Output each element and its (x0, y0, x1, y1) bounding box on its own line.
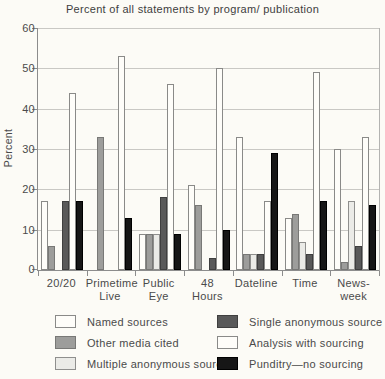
bar-primetime-live-punditry-no-sourcing (125, 218, 132, 270)
other-media-cited-swatch-icon (55, 336, 76, 349)
legend-label-analysis-with-sourcing: Analysis with sourcing (249, 337, 364, 349)
gridline-30 (38, 149, 379, 150)
bar-public-eye-other-media-cited (146, 234, 153, 270)
legend-item-analysis-with-sourcing: Analysis with sourcing (217, 336, 364, 349)
bar-news-week-single-anonymous-source (355, 246, 362, 270)
punditry-no-sourcing-swatch-icon (217, 357, 238, 370)
x-label-line: Hours (183, 290, 232, 303)
y-tick-label-20: 20 (7, 183, 35, 195)
bar-public-eye-punditry-no-sourcing (174, 234, 181, 270)
bar-20-20-other-media-cited (48, 246, 55, 270)
bar-news-week-other-media-cited (341, 262, 348, 270)
bar-48-hours-single-anonymous-source (209, 258, 216, 270)
x-label-news-week: News-week (329, 277, 378, 303)
x-tickmark-1 (87, 271, 88, 276)
bar-time-analysis-with-sourcing (313, 72, 320, 270)
x-tickmark-2 (135, 271, 136, 276)
legend-item-named-sources: Named sources (55, 315, 168, 328)
bar-news-week-analysis-with-sourcing (362, 137, 369, 270)
bar-public-eye-single-anonymous-source (160, 197, 167, 270)
legend: Named sourcesOther media citedMultiple a… (0, 315, 385, 377)
bar-time-named-sources (285, 218, 292, 270)
legend-label-single-anonymous-source: Single anonymous source (249, 316, 382, 328)
bar-public-eye-multiple-anonymous-sources (153, 234, 160, 270)
bar-dateline-analysis-with-sourcing (264, 201, 271, 270)
bar-20-20-named-sources (41, 201, 48, 270)
bar-20-20-punditry-no-sourcing (76, 201, 83, 270)
x-tickmark-0 (38, 271, 39, 276)
x-label-line: 48 (183, 277, 232, 290)
gridline-50 (38, 68, 379, 69)
bar-public-eye-analysis-with-sourcing (167, 84, 174, 270)
x-label-primetime-live: PrimetimeLive (86, 277, 135, 303)
x-label-line: Public (134, 277, 183, 290)
y-tick-label-60: 60 (7, 22, 35, 34)
bar-public-eye-named-sources (139, 234, 146, 270)
bar-20-20-single-anonymous-source (62, 201, 69, 270)
legend-label-punditry-no-sourcing: Punditry—no sourcing (249, 358, 363, 370)
bar-dateline-single-anonymous-source (257, 254, 264, 270)
legend-item-multiple-anonymous-sources: Multiple anonymous sources (55, 357, 234, 370)
x-label-line: News- (329, 277, 378, 290)
gridline-40 (38, 109, 379, 110)
legend-label-other-media-cited: Other media cited (87, 337, 179, 349)
bar-time-other-media-cited (292, 214, 299, 270)
x-label-20-20: 20/20 (37, 277, 86, 290)
x-label-dateline: Dateline (232, 277, 281, 290)
legend-item-punditry-no-sourcing: Punditry—no sourcing (217, 357, 363, 370)
bar-dateline-multiple-anonymous-sources (250, 254, 257, 270)
x-tickmark-6 (330, 271, 331, 276)
bar-48-hours-analysis-with-sourcing (216, 68, 223, 270)
x-label-public-eye: PublicEye (134, 277, 183, 303)
bar-time-punditry-no-sourcing (320, 201, 327, 270)
chart-title: Percent of all statements by program/ pu… (0, 3, 385, 15)
x-label-line: Eye (134, 290, 183, 303)
y-tick-label-0: 0 (7, 263, 35, 275)
bar-dateline-punditry-no-sourcing (271, 153, 278, 270)
x-axis-labels: 20/20PrimetimeLivePublicEye48HoursDateli… (37, 277, 378, 307)
x-tickmark-7 (379, 271, 380, 276)
x-label-line: Time (281, 277, 330, 290)
bar-48-hours-punditry-no-sourcing (223, 230, 230, 270)
bar-time-multiple-anonymous-sources (299, 242, 306, 270)
single-anonymous-source-swatch-icon (217, 315, 238, 328)
y-tick-label-50: 50 (7, 62, 35, 74)
bar-news-week-punditry-no-sourcing (369, 205, 376, 270)
x-tickmark-3 (184, 271, 185, 276)
bar-dateline-other-media-cited (243, 254, 250, 270)
bar-20-20-analysis-with-sourcing (69, 93, 76, 270)
bar-chart: Percent of all statements by program/ pu… (0, 0, 385, 379)
named-sources-swatch-icon (55, 315, 76, 328)
x-tickmark-4 (233, 271, 234, 276)
legend-label-multiple-anonymous-sources: Multiple anonymous sources (87, 358, 234, 370)
bar-48-hours-other-media-cited (195, 205, 202, 270)
gridline-10 (38, 230, 379, 231)
x-label-line: Primetime (86, 277, 135, 290)
x-label-line: Live (86, 290, 135, 303)
bar-news-week-multiple-anonymous-sources (348, 201, 355, 270)
x-label-48-hours: 48Hours (183, 277, 232, 303)
bar-news-week-named-sources (334, 149, 341, 270)
bar-time-single-anonymous-source (306, 254, 313, 270)
x-label-line: week (329, 290, 378, 303)
x-label-line: Dateline (232, 277, 281, 290)
y-tick-label-10: 10 (7, 224, 35, 236)
legend-label-named-sources: Named sources (87, 316, 168, 328)
bar-primetime-live-analysis-with-sourcing (118, 56, 125, 270)
legend-item-other-media-cited: Other media cited (55, 336, 179, 349)
y-tick-label-30: 30 (7, 143, 35, 155)
bar-dateline-named-sources (236, 137, 243, 270)
x-label-line: 20/20 (37, 277, 86, 290)
bar-primetime-live-other-media-cited (97, 137, 104, 270)
x-tickmark-5 (282, 271, 283, 276)
legend-item-single-anonymous-source: Single anonymous source (217, 315, 382, 328)
analysis-with-sourcing-swatch-icon (217, 336, 238, 349)
multiple-anonymous-sources-swatch-icon (55, 357, 76, 370)
gridline-60 (38, 28, 379, 29)
bar-48-hours-named-sources (188, 185, 195, 270)
y-tick-label-40: 40 (7, 103, 35, 115)
x-label-time: Time (281, 277, 330, 290)
gridline-20 (38, 189, 379, 190)
plot-area (37, 28, 380, 271)
